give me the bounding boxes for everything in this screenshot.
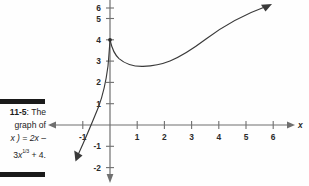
y-tick-label--2: -2 xyxy=(94,163,102,173)
x-tick-label-6: 6 xyxy=(271,132,276,142)
curve-right-branch xyxy=(110,7,266,67)
cusp-point-marker xyxy=(108,38,112,42)
caption-line-3-post: – xyxy=(39,133,46,143)
y-tick-label-3: 3 xyxy=(96,56,101,66)
graph-svg: x -1 1 2 3 4 5 6 xyxy=(48,0,309,186)
y-tick-label--1: -1 xyxy=(94,141,102,151)
caption-rule-bottom xyxy=(0,172,45,177)
y-tick-label-5: 5 xyxy=(96,14,101,24)
caption-rule-top xyxy=(0,99,45,104)
x-tick-label-1: 1 xyxy=(135,132,140,142)
caption-text: 11-5: The graph of x ) = 2x – 3x1/3 + 4. xyxy=(0,106,46,162)
y-axis-bottom-arrowhead xyxy=(107,174,114,183)
x-tick-label-3: 3 xyxy=(189,132,194,142)
x-axis-left-arrowhead xyxy=(48,122,56,129)
figure-caption: 11-5: The graph of x ) = 2x – 3x1/3 + 4. xyxy=(0,96,48,186)
x-tick-label-5: 5 xyxy=(244,132,249,142)
curve-lower-arrowhead xyxy=(74,151,82,162)
caption-line-1: 11-5: The xyxy=(0,106,46,119)
y-tick-label-4: 4 xyxy=(96,35,101,45)
figure-number: 11-5 xyxy=(10,107,27,117)
graph-plot: x -1 1 2 3 4 5 6 xyxy=(48,0,309,186)
caption-line-4-exponent: 1/3 xyxy=(22,148,29,154)
x-tick-label-4: 4 xyxy=(216,132,221,142)
y-tick-label-2: 2 xyxy=(96,77,101,87)
caption-line-3: x ) = 2x – xyxy=(0,132,46,145)
caption-line-2: graph of xyxy=(0,119,46,132)
figure-page: 11-5: The graph of x ) = 2x – 3x1/3 + 4.… xyxy=(0,0,309,186)
x-axis-label: x xyxy=(297,120,303,130)
caption-line-3-pre: x ) = 2 xyxy=(10,133,34,143)
y-tick-label-6: 6 xyxy=(96,3,101,13)
caption-line-4: 3x1/3 + 4. xyxy=(0,146,46,162)
caption-line-1-tail: : The xyxy=(27,107,46,117)
caption-line-4-post: + 4. xyxy=(29,149,46,159)
x-tick-label-2: 2 xyxy=(162,132,167,142)
x-axis-right-arrowhead xyxy=(287,122,295,129)
